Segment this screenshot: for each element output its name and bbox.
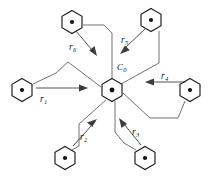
vector-r1-label-sub: 1: [44, 98, 47, 105]
vector-r1-label: r1: [40, 95, 47, 105]
cell-right-dot: [188, 88, 192, 92]
vector-r6-arrow: [76, 31, 97, 56]
vector-r3-label-sub: 3: [136, 131, 139, 138]
link-center-right: [123, 93, 185, 118]
diagram-canvas: [0, 0, 211, 178]
center-cell-dot: [110, 88, 115, 93]
vector-r2-label: r2: [80, 133, 87, 143]
cell-left: [12, 79, 32, 102]
vector-r5-label-sub: 5: [125, 39, 128, 46]
vector-r6-label-sub: 6: [73, 46, 76, 53]
vector-r1-arrow: [36, 85, 88, 92]
link-center-left: [33, 62, 101, 87]
vector-r2-label-sub: 2: [84, 136, 87, 143]
vector-r5-label: r5: [121, 36, 128, 46]
cell-lower-left-dot: [63, 156, 67, 160]
cell-left-dot: [20, 88, 24, 92]
cell-upper-right: [141, 9, 161, 32]
cell-lower-right-dot: [143, 156, 147, 160]
cell-upper-right-dot: [149, 18, 153, 22]
vector-r3-label: r3: [132, 128, 139, 138]
vector-r4-label: r4: [161, 72, 168, 82]
cell-lower-left: [55, 147, 75, 170]
link-center-upper-left: [83, 25, 112, 79]
cell-upper-left-dot: [70, 20, 74, 24]
center-cell: [102, 79, 122, 102]
center-cell-label-sub: 0: [123, 66, 126, 73]
cell-lower-right: [135, 147, 155, 170]
vector-r4-label-sub: 4: [165, 75, 168, 82]
center-cell-label: C0: [117, 63, 126, 72]
link-center-lower-left: [72, 100, 106, 150]
vector-r6-label: r6: [69, 43, 76, 53]
hexagonal-cell-vector-diagram: C0 r1 r2 r3 r4 r5 r6: [0, 0, 211, 178]
cell-upper-left: [62, 11, 82, 34]
